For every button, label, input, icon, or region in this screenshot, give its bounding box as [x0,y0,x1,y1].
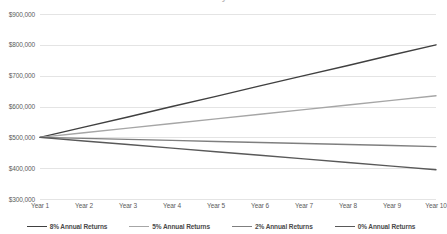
y-tick-label: $600,000 [9,103,35,110]
series-line [40,45,436,138]
plot-lines [40,14,436,199]
legend-item[interactable]: 0% Annual Returns [335,223,416,231]
y-tick-label: $700,000 [9,72,35,79]
legend-item[interactable]: 5% Annual Returns [129,223,210,231]
legend-swatch-line-icon [27,226,47,227]
x-tick-label: Year 3 [119,201,137,210]
x-tick-label: Year 5 [207,201,225,210]
y-axis: $300,000$400,000$500,000$600,000$700,000… [0,0,38,234]
x-tick-label: Year 7 [295,201,313,210]
chart-title: Investment Balance by Annual Return Rate [0,0,442,2]
x-tick-label: Year 8 [339,201,357,210]
plot-area [40,14,436,199]
legend-item[interactable]: 8% Annual Returns [27,223,108,231]
legend-swatch-line-icon [232,226,252,227]
x-tick-label: Year 2 [75,201,93,210]
series-line [40,96,436,138]
legend-label: 5% Annual Returns [152,223,210,231]
legend-swatch-line-icon [129,226,149,227]
legend-item[interactable]: 2% Annual Returns [232,223,313,231]
x-tick-label: Year 10 [425,201,446,210]
legend-label: 2% Annual Returns [255,223,313,231]
legend-label: 0% Annual Returns [358,223,416,231]
y-tick-label: $900,000 [9,11,35,18]
y-tick-label: $500,000 [9,134,35,141]
x-tick-label: Year 4 [163,201,181,210]
legend-label: 8% Annual Returns [50,223,108,231]
x-axis: Year 1Year 2Year 3Year 4Year 5Year 6Year… [40,201,436,213]
legend-swatch-line-icon [335,226,355,227]
y-tick-label: $400,000 [9,165,35,172]
x-tick-label: Year 9 [383,201,401,210]
y-tick-label: $800,000 [9,41,35,48]
gridline [40,199,436,200]
x-tick-label: Year 6 [251,201,269,210]
x-tick-label: Year 1 [31,201,49,210]
chart-legend: 8% Annual Returns5% Annual Returns2% Ann… [0,220,442,233]
